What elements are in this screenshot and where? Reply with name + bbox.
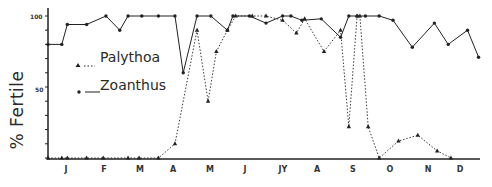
zoanthus-data-point xyxy=(126,14,129,17)
zoanthus-data-point xyxy=(173,14,176,17)
month-label: A xyxy=(314,165,320,174)
month-label: N xyxy=(425,165,432,174)
month-label: O xyxy=(387,165,394,174)
palythoa-data-point xyxy=(137,156,141,160)
palythoa-data-point xyxy=(65,156,69,160)
zoanthus-data-point xyxy=(157,14,160,17)
legend-zoanthus: Zoanthus xyxy=(100,77,166,93)
zoanthus-series xyxy=(46,14,480,74)
zoanthus-data-point xyxy=(391,19,394,22)
month-label: J xyxy=(65,165,68,174)
zoanthus-data-point xyxy=(182,71,185,74)
zoanthus-data-point xyxy=(209,14,212,17)
month-label: M xyxy=(206,165,214,174)
palythoa-data-point xyxy=(338,28,342,32)
month-label: A xyxy=(170,165,176,174)
fertility-line-chart xyxy=(0,0,492,187)
legend-palythoa: Palythoa xyxy=(100,49,160,65)
palythoa-data-point xyxy=(347,124,351,128)
palythoa-data-point xyxy=(416,133,420,137)
zoanthus-data-point xyxy=(195,14,198,17)
zoanthus-data-point xyxy=(411,46,414,49)
palythoa-data-point xyxy=(101,156,105,160)
palythoa-data-point xyxy=(366,124,370,128)
zoanthus-data-point xyxy=(264,21,267,24)
month-label: J xyxy=(244,165,247,174)
palythoa-data-point xyxy=(435,148,439,152)
palythoa-data-point xyxy=(126,156,130,160)
zoanthus-data-point xyxy=(85,23,88,26)
palythoa-legend-triangle-icon xyxy=(76,63,81,67)
zoanthus-data-point xyxy=(339,36,342,39)
zoanthus-data-point xyxy=(140,14,143,17)
palythoa-data-point xyxy=(206,99,210,103)
zoanthus-data-point xyxy=(466,29,469,32)
y-axis-label: % Fertile xyxy=(2,60,32,160)
zoanthus-data-point xyxy=(320,17,323,20)
zoanthus-data-point xyxy=(66,23,69,26)
zoanthus-data-point xyxy=(447,43,450,46)
month-label: S xyxy=(350,165,356,174)
ytick-100: 100 xyxy=(30,13,43,20)
zoanthus-data-point xyxy=(433,21,436,24)
month-label: D xyxy=(457,165,464,174)
zoanthus-data-point xyxy=(46,43,49,46)
y-axis-label-text: % Fertile xyxy=(7,55,27,165)
palythoa-data-point xyxy=(377,156,381,160)
palythoa-data-point xyxy=(60,156,64,160)
zoanthus-data-point xyxy=(60,43,63,46)
ytick-50: 50 xyxy=(35,86,43,93)
zoanthus-data-point xyxy=(347,14,350,17)
zoanthus-data-point xyxy=(477,55,480,58)
palythoa-data-point xyxy=(264,14,268,18)
palythoa-data-point xyxy=(302,16,306,20)
month-label: F xyxy=(101,165,106,174)
zoanthus-data-point xyxy=(104,14,107,17)
zoanthus-data-point xyxy=(118,29,121,32)
zoanthus-data-point xyxy=(378,14,381,17)
zoanthus-data-point xyxy=(364,14,367,17)
month-label: JY xyxy=(279,165,288,174)
palythoa-data-point xyxy=(214,49,218,53)
palythoa-data-point xyxy=(195,28,199,32)
palythoa-data-point xyxy=(173,141,177,145)
palythoa-data-point xyxy=(84,156,88,160)
zoanthus-data-point xyxy=(281,14,284,17)
zoanthus-legend-dot-icon xyxy=(77,90,80,93)
zoanthus-data-point xyxy=(289,14,292,17)
month-label: M xyxy=(136,165,144,174)
